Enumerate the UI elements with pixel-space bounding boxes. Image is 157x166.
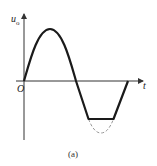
dashed-unclipped-trough bbox=[89, 119, 114, 133]
clipped-sine-curve bbox=[24, 29, 128, 119]
figure-caption: (a) bbox=[68, 150, 78, 159]
origin-label: O bbox=[17, 84, 24, 94]
y-axis-label: uo bbox=[11, 14, 20, 27]
x-axis-label: t bbox=[143, 81, 146, 91]
clipped-sine-figure: uo O t (a) bbox=[0, 0, 157, 166]
